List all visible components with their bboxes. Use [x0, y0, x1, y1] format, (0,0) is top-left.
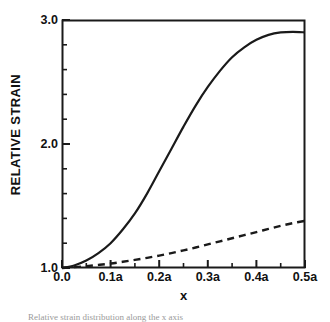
data-curves: [62, 32, 305, 268]
figure-caption: Relative strain distribution along the x…: [28, 312, 318, 322]
curve-solid-curve: [62, 32, 305, 268]
axis-ticks: [62, 20, 305, 268]
axes-frame-rect: [63, 21, 305, 268]
curve-dashed-curve: [62, 221, 305, 268]
axes-frame: [63, 21, 305, 268]
